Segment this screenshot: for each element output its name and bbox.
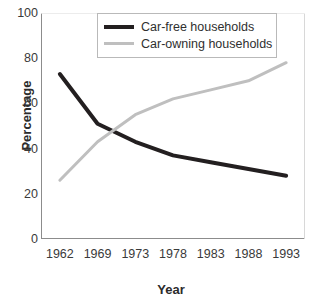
x-tick-label: 1962 (41, 247, 79, 265)
y-tick-label: 20 (4, 188, 38, 200)
y-tick-label: 40 (4, 143, 38, 155)
x-axis-title: Year (36, 282, 306, 297)
series-line-0 (60, 74, 286, 176)
series-lines (60, 63, 286, 181)
legend-item[interactable]: Car-owning households (104, 35, 270, 52)
x-tick-label: 1983 (192, 247, 230, 265)
x-tick-label: 1978 (154, 247, 192, 265)
x-tick-label: 1969 (79, 247, 117, 265)
y-tick-label: 80 (4, 52, 38, 64)
y-tick-label: 100 (4, 7, 38, 19)
legend-label: Car-owning households (141, 37, 272, 51)
x-axis-tick-labels: 1962196919731978198319881993 (41, 247, 305, 265)
y-tick-label: 0 (4, 233, 38, 245)
chart-legend: Car-free householdsCar-owning households (97, 13, 277, 58)
x-tick-label: 1993 (267, 247, 305, 265)
legend-swatch-icon (104, 25, 134, 29)
x-tick-label: 1988 (230, 247, 268, 265)
y-axis-tick-labels: 020406080100 (0, 0, 38, 308)
line-chart: Percentage 020406080100 1962196919731978… (0, 0, 330, 308)
legend-item[interactable]: Car-free households (104, 18, 270, 35)
legend-swatch-icon (104, 42, 134, 45)
x-tick-label: 1973 (116, 247, 154, 265)
y-tick-label: 60 (4, 97, 38, 109)
legend-label: Car-free households (141, 20, 254, 34)
